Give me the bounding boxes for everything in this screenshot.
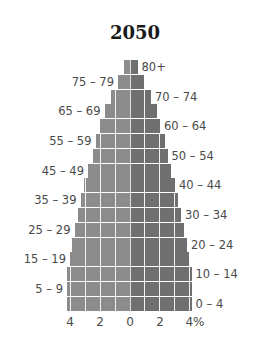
gridline: [115, 223, 116, 237]
bar-right: [130, 223, 184, 237]
population-pyramid: 80+75 – 7970 – 7465 – 6960 – 6455 – 5950…: [0, 0, 270, 352]
age-group-label: 80+: [142, 60, 166, 74]
gridline: [115, 252, 116, 266]
bar-right: [130, 60, 138, 74]
bar-left: [67, 267, 130, 281]
x-tick-label: 4%: [185, 315, 204, 329]
gridline: [70, 282, 71, 296]
gridline: [100, 267, 101, 281]
age-group-label: 30 – 34: [185, 208, 227, 222]
gridline: [174, 193, 175, 207]
gridline: [144, 134, 145, 148]
gridline: [144, 149, 145, 163]
bar-left: [67, 297, 130, 311]
gridline: [144, 119, 145, 133]
gridline: [174, 223, 175, 237]
center-line: [130, 297, 131, 311]
gridline: [115, 178, 116, 192]
gridline: [115, 90, 116, 104]
bar-right: [130, 178, 175, 192]
gridline: [159, 282, 160, 296]
age-group-label: 75 – 79: [72, 75, 114, 89]
bar-right: [130, 267, 192, 281]
bar-left: [75, 223, 131, 237]
gridline: [159, 297, 160, 311]
gridline: [100, 134, 101, 148]
age-group-label: 15 – 19: [24, 252, 66, 266]
gridline: [144, 178, 145, 192]
gridline: [144, 282, 145, 296]
age-group-label: 5 – 9: [35, 282, 63, 296]
x-tick-label: 2: [156, 315, 164, 329]
gridline: [70, 297, 71, 311]
gridline: [115, 238, 116, 252]
gridline: [159, 193, 160, 207]
center-line: [130, 193, 131, 207]
gridline: [174, 252, 175, 266]
age-group-label: 50 – 54: [172, 149, 214, 163]
gridline: [85, 178, 86, 192]
center-line: [130, 238, 131, 252]
gridline: [159, 238, 160, 252]
bar-right: [130, 90, 151, 104]
age-group-label: 55 – 59: [49, 134, 91, 148]
gridline: [85, 193, 86, 207]
gridline: [100, 297, 101, 311]
gridline: [115, 208, 116, 222]
center-line: [130, 267, 131, 281]
gridline: [159, 178, 160, 192]
age-group-label: 65 – 69: [58, 104, 100, 118]
gridline: [100, 282, 101, 296]
bar-right: [130, 149, 168, 163]
gridline: [115, 193, 116, 207]
gridline: [189, 297, 190, 311]
gridline: [189, 267, 190, 281]
gridline: [85, 282, 86, 296]
bar-right: [130, 282, 192, 296]
gridline: [115, 104, 116, 118]
gridline: [144, 238, 145, 252]
gridline: [144, 164, 145, 178]
bar-left: [111, 90, 131, 104]
gridline: [115, 119, 116, 133]
age-group-label: 25 – 29: [28, 223, 70, 237]
age-group-label: 10 – 14: [196, 267, 238, 281]
gridline: [144, 193, 145, 207]
gridline: [174, 282, 175, 296]
bar-left: [88, 164, 130, 178]
gridline: [85, 238, 86, 252]
center-line: [130, 149, 131, 163]
center-line: [130, 208, 131, 222]
center-line: [130, 178, 131, 192]
gridline: [174, 267, 175, 281]
gridline: [100, 149, 101, 163]
age-group-label: 40 – 44: [179, 178, 221, 192]
bar-left: [93, 149, 131, 163]
gridline: [159, 223, 160, 237]
gridline: [144, 252, 145, 266]
center-line: [130, 60, 131, 74]
gridline: [100, 178, 101, 192]
gridline: [115, 267, 116, 281]
gridline: [144, 90, 145, 104]
gridline: [100, 164, 101, 178]
gridline: [115, 297, 116, 311]
center-line: [130, 119, 131, 133]
center-line: [130, 90, 131, 104]
x-tick-label: 0: [126, 315, 134, 329]
gridline: [159, 164, 160, 178]
gridline: [115, 134, 116, 148]
bar-left: [84, 178, 131, 192]
gridline: [85, 223, 86, 237]
gridline: [100, 193, 101, 207]
gridline: [174, 208, 175, 222]
age-group-label: 45 – 49: [42, 164, 84, 178]
gridline: [144, 104, 145, 118]
age-group-label: 20 – 24: [191, 238, 233, 252]
gridline: [100, 238, 101, 252]
bar-right: [130, 75, 144, 89]
bar-right: [130, 164, 171, 178]
gridline: [159, 208, 160, 222]
center-line: [130, 134, 131, 148]
gridline: [115, 164, 116, 178]
